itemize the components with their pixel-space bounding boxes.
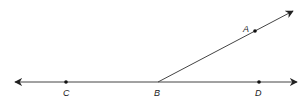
geometry-diagram: A B C D [0,0,306,101]
label-b: B [154,88,160,98]
point-d [257,80,261,84]
point-a [253,29,257,33]
ray-ba [158,11,293,82]
point-c [64,80,68,84]
label-c: C [63,88,70,98]
label-d: D [255,88,262,98]
label-a: A [242,24,249,34]
